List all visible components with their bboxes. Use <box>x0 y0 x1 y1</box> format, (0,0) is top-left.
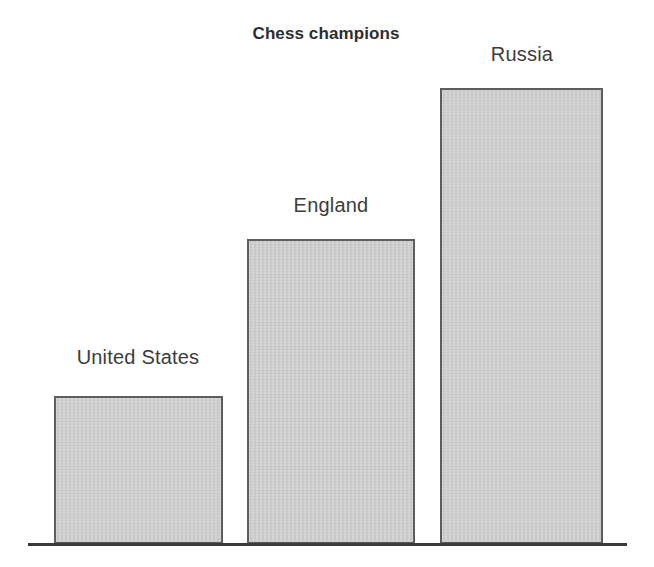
category-axis-baseline <box>28 543 627 546</box>
plot-area: United States England Russia <box>0 0 654 567</box>
bar-united-states <box>54 396 223 544</box>
bar-label-russia: Russia <box>437 43 607 66</box>
bar-england <box>247 239 415 544</box>
bar-russia <box>440 88 603 544</box>
bar-label-united-states: United States <box>53 346 223 369</box>
chart-canvas: Chess champions United States England Ru… <box>0 0 654 567</box>
bar-label-england: England <box>246 194 416 217</box>
